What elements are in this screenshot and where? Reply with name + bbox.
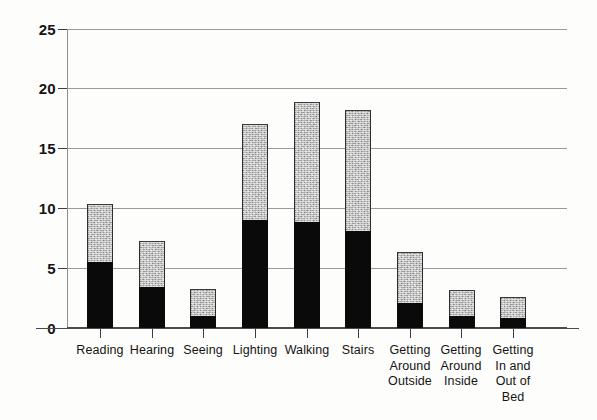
plot-area (67, 29, 567, 328)
x-label-line: In and (475, 359, 551, 375)
y-tick-label-5: 5 (22, 261, 56, 276)
bar-segment-lower (242, 220, 268, 328)
bar-segment-lower (87, 262, 113, 328)
bar-segment-lower (190, 316, 216, 328)
x-tick-mark-stairs (358, 329, 359, 338)
x-tick-mark-hearing (152, 329, 153, 338)
x-label-line: Bed (475, 390, 551, 406)
bar-segment-upper (500, 297, 526, 318)
y-tick-label-25: 25 (22, 22, 56, 37)
bar-segment-upper (190, 289, 216, 316)
bar-segment-upper (397, 252, 423, 303)
bar-segment-lower (449, 316, 475, 328)
bar-segment-lower (294, 222, 320, 328)
bar-segment-upper (139, 241, 165, 287)
x-label-line: Getting (475, 343, 551, 359)
bar-segment-upper (242, 124, 268, 220)
bar-segment-upper (345, 110, 371, 231)
y-tick-label-10: 10 (22, 201, 56, 216)
bar-segment-lower (139, 287, 165, 328)
bar-segment-upper (87, 204, 113, 262)
y-axis-labels: 25 20 15 10 5 0 (14, 0, 56, 420)
x-label-line: Out of (475, 374, 551, 390)
x-tick-mark-getting-around-inside (461, 329, 462, 338)
gridline-20 (67, 88, 567, 89)
x-tick-mark-getting-around-outside (410, 329, 411, 338)
bar-segment-upper (294, 102, 320, 222)
bar-chart: 25 20 15 10 5 0 (0, 0, 597, 420)
y-tick-label-20: 20 (22, 81, 56, 96)
x-tick-mark-seeing (203, 329, 204, 338)
bar-segment-lower (397, 303, 423, 328)
bar-segment-lower (500, 318, 526, 328)
bar-segment-upper (449, 290, 475, 316)
x-tick-mark-walking (307, 329, 308, 338)
x-tick-mark-getting-in-and-out-of-bed (513, 329, 514, 338)
y-tick-label-15: 15 (22, 141, 56, 156)
x-tick-mark-lighting (255, 329, 256, 338)
gridline-25 (67, 29, 567, 30)
bar-segment-lower (345, 231, 371, 328)
x-tick-mark-reading (100, 329, 101, 338)
x-label-getting-in-and-out-of-bed: Getting In and Out of Bed (475, 343, 551, 405)
